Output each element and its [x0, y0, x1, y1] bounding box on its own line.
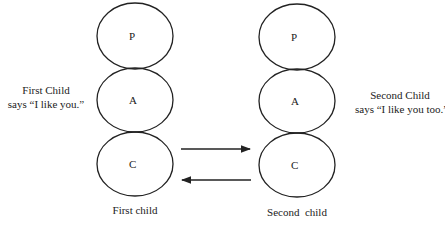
left-speech-line1: First Child	[4, 83, 88, 97]
left-speech: First Child says “I like you.”	[4, 83, 88, 111]
right-a-label: A	[291, 94, 299, 108]
right-caption: Second child	[262, 205, 332, 219]
left-speech-line2: says “I like you.”	[4, 97, 88, 111]
right-c-label: C	[291, 158, 298, 172]
left-a-label: A	[129, 93, 137, 107]
right-speech: Second Child says “I like you too.”	[355, 88, 445, 116]
right-speech-line1: Second Child	[355, 88, 445, 102]
left-p-label: P	[129, 29, 135, 43]
right-p-label: P	[291, 30, 297, 44]
right-speech-line2: says “I like you too.”	[355, 102, 445, 116]
left-c-label: C	[129, 157, 136, 171]
left-caption: First child	[105, 203, 165, 217]
